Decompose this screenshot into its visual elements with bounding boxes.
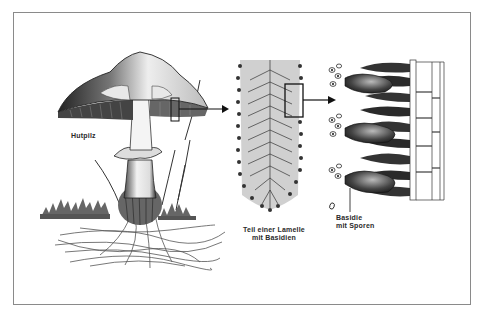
trama-cells [410,60,444,200]
free-spore [329,202,335,210]
arrow-gill-to-basidia [303,96,336,104]
label-gill-section-line2: mit Basidien [236,234,312,242]
label-basidia-line1: Basidie [336,214,375,222]
label-hutpilz: Hutpilz [71,132,96,140]
fungus-life-structure-illustration [0,0,487,319]
basidia-detail-drawing [329,60,444,212]
mushroom-drawing [40,52,225,270]
label-basidia-line2: mit Sporen [336,222,375,230]
mushroom-stem [124,160,156,198]
label-gill-section: Teil einer Lamelle mit Basidien [236,226,312,242]
spores [329,64,342,178]
label-basidia: Basidie mit Sporen [336,214,375,230]
label-gill-section-line1: Teil einer Lamelle [236,226,312,234]
gill-section-drawing [236,60,303,212]
